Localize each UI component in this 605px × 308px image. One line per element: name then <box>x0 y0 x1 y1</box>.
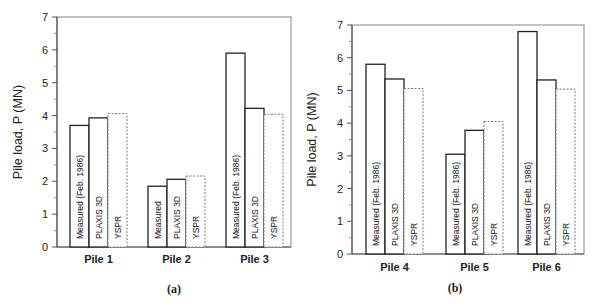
bar-label: Measured (Feb. 1986) <box>75 155 85 239</box>
chart-panel-a: 01234567Pile load, P (MN)Measured (Feb. … <box>11 11 291 296</box>
y-tick-label: 1 <box>337 215 343 227</box>
bar-label: PLAXIS 3D <box>94 196 104 239</box>
chart-panel-b: 01234567Pile load, P (MN)Measured (Feb. … <box>305 19 584 295</box>
category-label: Pile 1 <box>84 253 113 265</box>
category-label: Pile 3 <box>240 253 269 265</box>
y-tick-label: 4 <box>337 117 343 129</box>
bar-label: YSPR <box>191 216 201 239</box>
bar-label: Measured (Feb. 1986) <box>451 162 461 246</box>
y-tick-label: 0 <box>42 241 48 253</box>
y-tick-label: 6 <box>42 44 48 56</box>
y-tick-label: 3 <box>337 150 343 162</box>
y-axis-label: Pile load, P (MN) <box>11 85 25 179</box>
category-label: Pile 2 <box>162 253 191 265</box>
bar-label: PLAXIS 3D <box>172 196 182 239</box>
bar-label: PLAXIS 3D <box>542 203 552 246</box>
bar-label: YSPR <box>489 223 499 246</box>
y-axis-label: Pile load, P (MN) <box>305 92 319 186</box>
bar-label: PLAXIS 3D <box>250 196 260 239</box>
bar-label: Measured <box>153 201 163 239</box>
bar-label: PLAXIS 3D <box>470 203 480 246</box>
y-tick-label: 1 <box>42 208 48 220</box>
category-label: Pile 5 <box>460 261 489 273</box>
y-tick-label: 7 <box>337 19 343 31</box>
y-tick-label: 5 <box>42 77 48 89</box>
bar-label: Measured (Feb. 1986) <box>523 162 533 246</box>
bar-label: YSPR <box>269 216 279 239</box>
y-tick-label: 4 <box>42 110 48 122</box>
bar-label: PLAXIS 3D <box>390 203 400 246</box>
category-label: Pile 6 <box>532 261 561 273</box>
y-tick-label: 7 <box>42 11 48 23</box>
category-label: Pile 4 <box>380 261 410 273</box>
y-tick-label: 2 <box>42 175 48 187</box>
panel-label: (b) <box>448 281 463 295</box>
figure: 01234567Pile load, P (MN)Measured (Feb. … <box>0 0 605 308</box>
bar-label: YSPR <box>561 223 571 246</box>
y-tick-label: 5 <box>337 84 343 96</box>
panel-label: (a) <box>167 282 181 296</box>
bar-label: Measured (Feb. 1986) <box>371 162 381 246</box>
y-tick-label: 3 <box>42 142 48 154</box>
y-tick-label: 0 <box>337 248 343 260</box>
bar-label: Measured (Feb. 1986) <box>231 155 241 239</box>
y-tick-label: 6 <box>337 52 343 64</box>
bar-label: YSPR <box>113 216 123 239</box>
bar-label: YSPR <box>409 223 419 246</box>
y-tick-label: 2 <box>337 183 343 195</box>
